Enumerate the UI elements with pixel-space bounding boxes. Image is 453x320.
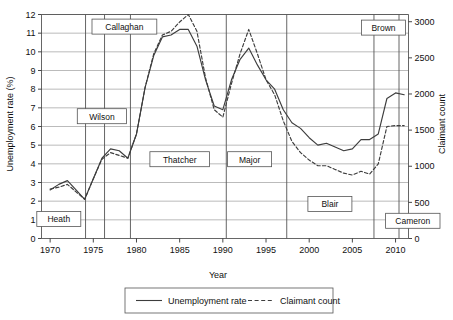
pm-label-text: Major bbox=[239, 155, 260, 165]
y-tick-label-left: 3 bbox=[30, 178, 35, 188]
x-tick-label: 2010 bbox=[386, 245, 406, 255]
y-axis-right-title: Claimant count bbox=[437, 93, 447, 154]
pm-label-text: Blair bbox=[321, 199, 338, 209]
pm-label-text: Cameron bbox=[395, 216, 430, 226]
chart-legend: Unemployment rate Claimant count bbox=[125, 288, 341, 313]
pm-label-cameron: Cameron bbox=[386, 213, 440, 228]
y-tick-label-left: 0 bbox=[30, 234, 35, 244]
y-tick-label-left: 9 bbox=[30, 66, 35, 76]
pm-label-blair: Blair bbox=[308, 197, 352, 212]
pm-label-text: Thatcher bbox=[163, 155, 197, 165]
y-tick-label-left: 5 bbox=[30, 140, 35, 150]
y-tick-label-right: 1000 bbox=[415, 161, 435, 171]
legend-label-unemployment-rate: Unemployment rate bbox=[168, 296, 247, 306]
y-tick-label-left: 4 bbox=[30, 159, 35, 169]
pm-label-thatcher: Thatcher bbox=[150, 152, 210, 167]
y-tick-label-right: 500 bbox=[415, 198, 430, 208]
y-tick-label-left: 10 bbox=[25, 47, 35, 57]
y-tick-label-left: 1 bbox=[30, 215, 35, 225]
y-tick-label-left: 8 bbox=[30, 84, 35, 94]
pm-label-text: Brown bbox=[371, 23, 395, 33]
x-tick-label: 1985 bbox=[170, 245, 190, 255]
pm-label-heath: Heath bbox=[37, 211, 81, 226]
y-tick-label-right: 2000 bbox=[415, 89, 435, 99]
y-tick-label-left: 12 bbox=[25, 10, 35, 20]
x-tick-label: 1995 bbox=[256, 245, 276, 255]
pm-label-text: Callaghan bbox=[105, 22, 144, 32]
y-tick-label-left: 7 bbox=[30, 103, 35, 113]
y-tick-label-left: 6 bbox=[30, 122, 35, 132]
pm-label-callaghan: Callaghan bbox=[92, 19, 157, 34]
y-tick-label-right: 3000 bbox=[415, 17, 435, 27]
pm-label-major: Major bbox=[228, 152, 272, 167]
y-axis-left-title: Unemployment rate (%) bbox=[5, 76, 15, 171]
pm-label-brown: Brown bbox=[362, 20, 406, 35]
y-tick-label-right: 2500 bbox=[415, 53, 435, 63]
pm-label-text: Wilson bbox=[89, 112, 115, 122]
y-tick-label-right: 1500 bbox=[415, 125, 435, 135]
legend-label-claimant-count: Claimant count bbox=[280, 296, 341, 306]
x-tick-label: 2000 bbox=[299, 245, 319, 255]
y-tick-label-left: 11 bbox=[26, 28, 35, 38]
x-tick-label: 1980 bbox=[126, 245, 146, 255]
chart-root: 0123456789101112 05001000150020002500300… bbox=[0, 0, 453, 320]
pm-label-wilson: Wilson bbox=[77, 109, 126, 124]
x-tick-label: 1990 bbox=[213, 245, 233, 255]
x-tick-label: 2005 bbox=[342, 245, 362, 255]
y-tick-label-right: 0 bbox=[415, 234, 420, 244]
unemployment-claimant-count-chart: 0123456789101112 05001000150020002500300… bbox=[0, 0, 453, 320]
x-tick-label: 1970 bbox=[40, 245, 60, 255]
pm-label-text: Heath bbox=[47, 214, 70, 224]
y-tick-label-left: 2 bbox=[30, 196, 35, 206]
x-tick-label: 1975 bbox=[83, 245, 103, 255]
x-axis-title: Year bbox=[209, 270, 227, 280]
